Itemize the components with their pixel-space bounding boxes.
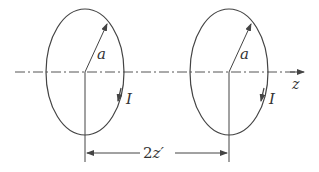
z-axis-label: z [291,76,300,92]
left-current-label: I [125,90,133,108]
left-loop [46,9,124,162]
right-loop [190,9,268,162]
diagram-canvas: z a I a I 2z′ [0,0,319,172]
left-radius-label: a [97,45,106,63]
separation-label: 2z′ [143,144,164,162]
right-current-label: I [268,90,276,108]
coil-diagram: z a I a I 2z′ [0,0,319,172]
right-radius-label: a [240,45,249,63]
current-arrow [261,88,264,101]
